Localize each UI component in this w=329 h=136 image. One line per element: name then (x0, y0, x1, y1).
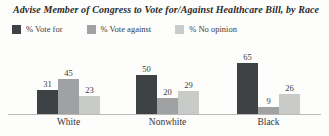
bar-group-white: 314523 (37, 69, 100, 115)
legend-swatch-icon (175, 25, 184, 34)
bar-cell: 65 (237, 53, 258, 115)
bar-value-label: 23 (85, 86, 94, 95)
bar-cell: 23 (79, 86, 100, 115)
chart-title: Advise Member of Congress to Vote for/Ag… (13, 4, 323, 15)
bar-cell: 31 (37, 80, 58, 115)
bar (58, 79, 79, 114)
bar-value-label: 45 (64, 69, 73, 78)
bar-group-black: 65926 (237, 53, 300, 115)
bar-cell: 9 (258, 97, 279, 115)
bar-cell: 45 (58, 69, 79, 115)
legend-swatch-icon (87, 25, 96, 34)
category-label: Nonwhite (149, 117, 186, 127)
bar-value-label: 26 (285, 84, 294, 93)
bar-group-nonwhite: 502029 (136, 65, 199, 115)
bar-cell: 29 (178, 81, 199, 115)
bar (79, 96, 100, 114)
bar-value-label: 50 (142, 65, 151, 74)
bar (237, 63, 258, 114)
legend-item: % No opinion (175, 24, 237, 34)
bar (157, 98, 178, 114)
bar-value-label: 20 (163, 88, 172, 97)
category-axis: WhiteNonwhiteBlack (0, 117, 329, 131)
legend-label: % No opinion (189, 24, 237, 34)
bar (258, 107, 279, 114)
bar-value-label: 9 (266, 97, 270, 106)
legend-label: % Vote for (26, 24, 63, 34)
category-label: White (57, 117, 80, 127)
bar-cell: 20 (157, 88, 178, 115)
bar-value-label: 31 (43, 80, 52, 89)
category-label: Black (257, 117, 279, 127)
bar (279, 94, 300, 114)
bar (178, 91, 199, 114)
bar (136, 75, 157, 114)
legend-label: % Vote against (101, 24, 152, 34)
x-axis-baseline (8, 114, 321, 115)
bar-value-label: 29 (184, 81, 193, 90)
bar-value-label: 65 (243, 53, 252, 62)
chart-area: 31452350202965926 (0, 46, 329, 115)
legend-item: % Vote against (87, 24, 152, 34)
bar (37, 90, 58, 114)
bar-cell: 50 (136, 65, 157, 115)
legend: % Vote for% Vote against% No opinion (12, 24, 261, 34)
bar-cell: 26 (279, 84, 300, 115)
legend-swatch-icon (12, 25, 21, 34)
chart-panel: Advise Member of Congress to Vote for/Ag… (0, 0, 329, 136)
legend-item: % Vote for (12, 24, 63, 34)
